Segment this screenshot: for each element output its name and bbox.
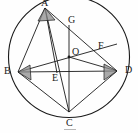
point-label-C: C: [66, 118, 73, 128]
point-label-O: O: [72, 47, 79, 57]
segment-CD: [69, 71, 117, 112]
scan-artifact-underline: [64, 129, 76, 130]
point-label-A: A: [41, 0, 48, 8]
angle-marker-D: [104, 64, 117, 80]
point-label-E: E: [52, 73, 58, 83]
point-label-F: F: [98, 41, 104, 51]
point-label-B: B: [4, 66, 11, 76]
point-label-D: D: [125, 65, 132, 75]
geometry-figure: A B C D O E F G: [0, 0, 138, 133]
center-point-dot: [68, 56, 71, 59]
point-label-G: G: [68, 15, 75, 25]
segment-BD: [18, 71, 117, 72]
